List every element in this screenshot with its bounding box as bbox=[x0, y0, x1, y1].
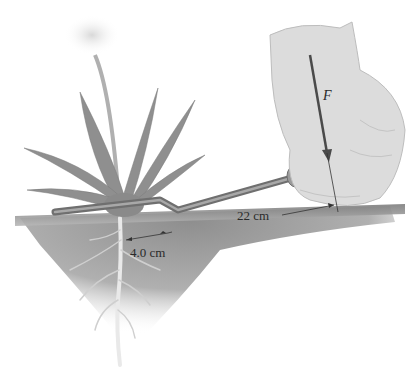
soil bbox=[15, 204, 405, 350]
diagram-canvas bbox=[0, 0, 418, 368]
lever-diagram: F 22 cm 4.0 cm bbox=[0, 0, 418, 368]
long-arm-label: 22 cm bbox=[237, 208, 269, 224]
seed-head bbox=[64, 15, 120, 55]
force-label: F bbox=[323, 88, 332, 104]
short-arm-label: 4.0 cm bbox=[130, 245, 165, 261]
plant bbox=[24, 15, 205, 217]
